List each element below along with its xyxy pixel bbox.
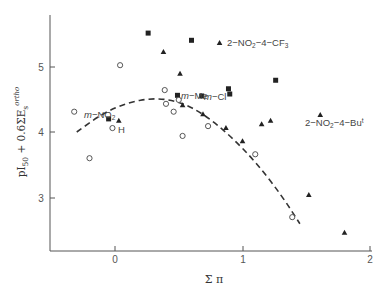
triangle-marker xyxy=(161,49,167,54)
circle-marker xyxy=(253,152,258,157)
triangle-marker xyxy=(342,230,348,235)
triangle-marker xyxy=(268,118,274,123)
triangle-marker xyxy=(223,125,229,130)
circle-marker xyxy=(87,156,92,161)
circle-marker xyxy=(110,125,115,130)
data-points xyxy=(72,31,348,235)
circle-marker xyxy=(180,133,185,138)
annotation-h: H xyxy=(118,124,125,135)
triangle-marker xyxy=(259,121,265,126)
annotation-m-no2: m−NO2 xyxy=(84,109,116,121)
y-tick-3: 3 xyxy=(38,193,44,204)
circle-marker xyxy=(163,101,168,106)
square-marker xyxy=(226,86,231,91)
scatter-plot: 5 4 3 0 1 2 Σ π pI50 + 0.6ΣEsortho m−NO2… xyxy=(0,0,383,289)
circle-marker xyxy=(290,215,295,220)
x-axis-label: Σ π xyxy=(205,273,224,286)
square-marker xyxy=(146,31,151,36)
triangle-marker xyxy=(306,192,312,197)
triangle-marker xyxy=(217,40,223,45)
y-axis-label: pI50 + 0.6ΣEsortho xyxy=(13,87,30,178)
circle-marker xyxy=(118,63,123,68)
annotation-m-cl: m−Cl xyxy=(204,91,226,102)
triangle-marker xyxy=(116,118,122,123)
y-tick-4: 4 xyxy=(38,127,44,138)
circle-marker xyxy=(72,109,77,114)
square-marker xyxy=(273,78,278,83)
y-tick-5: 5 xyxy=(38,62,44,73)
circle-marker xyxy=(162,87,167,92)
circle-marker xyxy=(171,109,176,114)
circle-marker xyxy=(205,124,210,129)
x-tick-2: 2 xyxy=(367,254,373,265)
triangle-marker xyxy=(177,71,183,76)
square-marker xyxy=(189,38,194,43)
x-tick-1: 1 xyxy=(240,254,246,265)
triangle-marker xyxy=(240,138,246,143)
annotation-2-no2-4-cf3: 2−NO2−4−CF3 xyxy=(227,37,289,49)
x-tick-0: 0 xyxy=(112,254,118,265)
annotation-2-no2-4-but: 2−NO2−4−But xyxy=(305,117,364,129)
square-marker xyxy=(227,92,232,97)
